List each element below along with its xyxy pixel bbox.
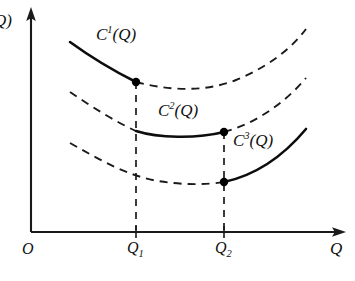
x-tick-label-q2-base: Q [215, 239, 227, 256]
junction-dot-c2-q2 [220, 128, 228, 136]
y-axis-label: Q) [0, 12, 12, 29]
axes-group [26, 7, 346, 237]
junction-dot-c1-q1 [132, 78, 140, 86]
x-tick-label-q1: Q1 [127, 240, 144, 260]
curve-label-c3-base: C [233, 131, 244, 150]
curve-c2-dashed-left-segment [70, 92, 136, 131]
curve-c3-dashed-segment [70, 143, 224, 184]
curve-c2-dashed-right-segment [224, 78, 306, 132]
x-tick-label-q2: Q2 [215, 240, 232, 260]
curve-label-c3-tail: (Q) [250, 131, 274, 150]
curve-c1-dashed-segment [136, 29, 306, 89]
x-tick-label-q1-subscript: 1 [139, 248, 144, 259]
junction-dots-group [132, 78, 228, 186]
origin-label: O [22, 241, 34, 257]
figure-canvas [0, 0, 355, 281]
x-tick-label-q1-base: Q [127, 239, 139, 256]
curve-label-c1: C1(Q) [96, 25, 136, 43]
curve-label-c3: C3(Q) [233, 131, 273, 149]
junction-dot-c3-q2 [220, 178, 228, 186]
curve-label-c1-base: C [96, 25, 107, 44]
curve-c1-solid-segment [70, 42, 136, 82]
cost-curve-figure: Q) C1(Q) C2(Q) C3(Q) O Q1 Q2 Q [0, 0, 355, 281]
curve-c2-solid-segment [136, 131, 224, 137]
x-axis-label: Q [330, 240, 342, 257]
curve-label-c2-base: C [158, 101, 169, 120]
curve-label-c2-tail: (Q) [175, 101, 199, 120]
curve-label-c1-tail: (Q) [113, 25, 137, 44]
curve-label-c2: C2(Q) [158, 101, 198, 119]
x-tick-label-q2-subscript: 2 [227, 248, 232, 259]
